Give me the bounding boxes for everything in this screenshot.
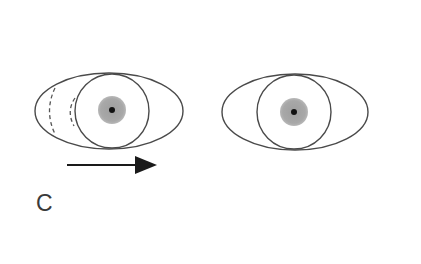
right-arrow-icon [67,156,157,174]
right-eye [222,74,368,150]
panel-label: C [36,190,53,216]
left-dashed-arc-outer [50,88,56,134]
right-pupil-center [291,109,297,115]
left-dashed-arc-inner [70,98,75,126]
left-pupil-center [109,107,115,113]
left-eye [35,73,183,149]
eye-movement-diagram [0,0,421,264]
